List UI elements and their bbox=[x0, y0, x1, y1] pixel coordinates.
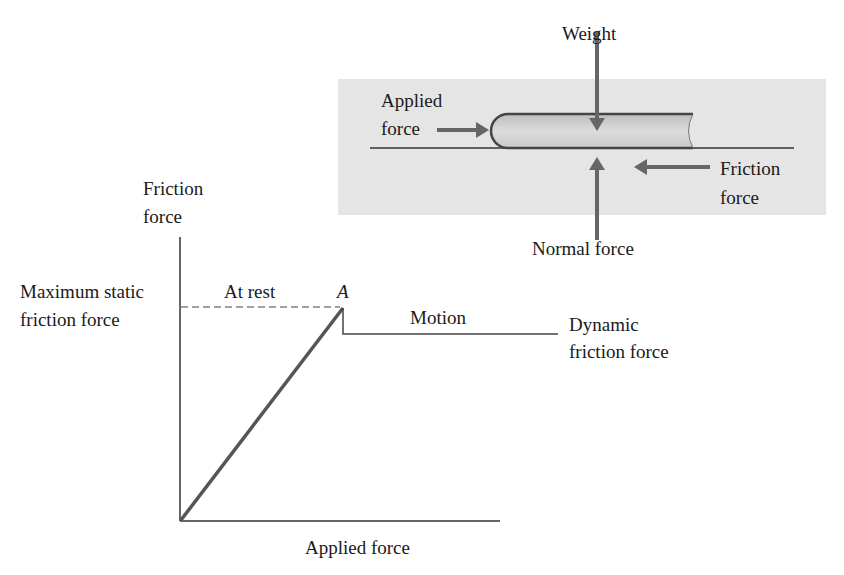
x-axis-label: Applied force bbox=[305, 537, 410, 559]
motion-label: Motion bbox=[410, 307, 466, 329]
dynamic-label-line2: friction force bbox=[569, 341, 669, 363]
y-axis-label-line2: force bbox=[143, 206, 182, 228]
point-a-label: A bbox=[337, 281, 349, 303]
max-static-label-line2: friction force bbox=[20, 309, 120, 331]
applied-label-line2: force bbox=[381, 118, 420, 140]
normal-force-label: Normal force bbox=[532, 238, 634, 260]
at-rest-label: At rest bbox=[224, 281, 275, 303]
static-friction-line bbox=[181, 308, 343, 520]
friction-label-line2: force bbox=[720, 187, 759, 209]
dynamic-label-line1: Dynamic bbox=[569, 314, 639, 336]
friction-label-line1: Friction bbox=[720, 158, 780, 180]
y-axis-label-line1: Friction bbox=[143, 178, 203, 200]
weight-label: Weight bbox=[562, 23, 616, 45]
applied-label-line1: Applied bbox=[381, 90, 442, 112]
max-static-label-line1: Maximum static bbox=[20, 281, 144, 303]
